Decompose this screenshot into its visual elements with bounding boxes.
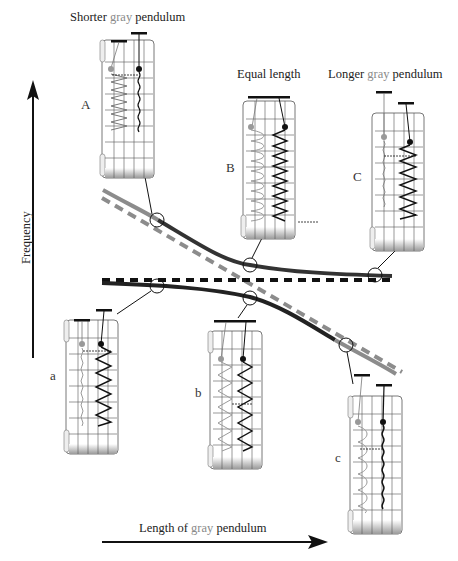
panel-A [100,32,154,178]
x-axis-arrow [102,535,328,549]
x-axis-label-suffix: pendulum [213,521,266,535]
title-shorter-prefix: Shorter [70,10,110,24]
lower-branch-gray [335,340,396,374]
x-axis-label-gray: gray [191,521,213,535]
y-axis-label: Frequency [19,198,34,278]
title-longer-gray: gray [367,67,389,81]
panel-B [241,96,318,239]
title-shorter-gray: gray [110,10,132,24]
panel-label-B: B [226,160,235,176]
title-longer-suffix: pendulum [389,67,442,81]
panel-a [64,309,118,454]
x-axis-label: Length of gray pendulum [139,521,266,536]
panel-C [370,91,424,251]
panel-label-C: C [353,169,362,185]
title-longer-prefix: Longer [328,67,367,81]
panel-label-c: c [335,450,341,466]
panel-label-a: a [50,368,56,384]
panel-b [208,320,262,469]
panel-label-b: b [195,385,202,401]
title-equal: Equal length [237,67,301,82]
x-axis-label-prefix: Length of [139,521,191,535]
diagram-canvas [0,0,458,561]
panel-label-A: A [81,97,90,113]
title-shorter-suffix: pendulum [132,10,185,24]
title-shorter: Shorter gray pendulum [70,10,185,25]
panel-c [348,374,402,534]
title-longer: Longer gray pendulum [328,67,443,82]
